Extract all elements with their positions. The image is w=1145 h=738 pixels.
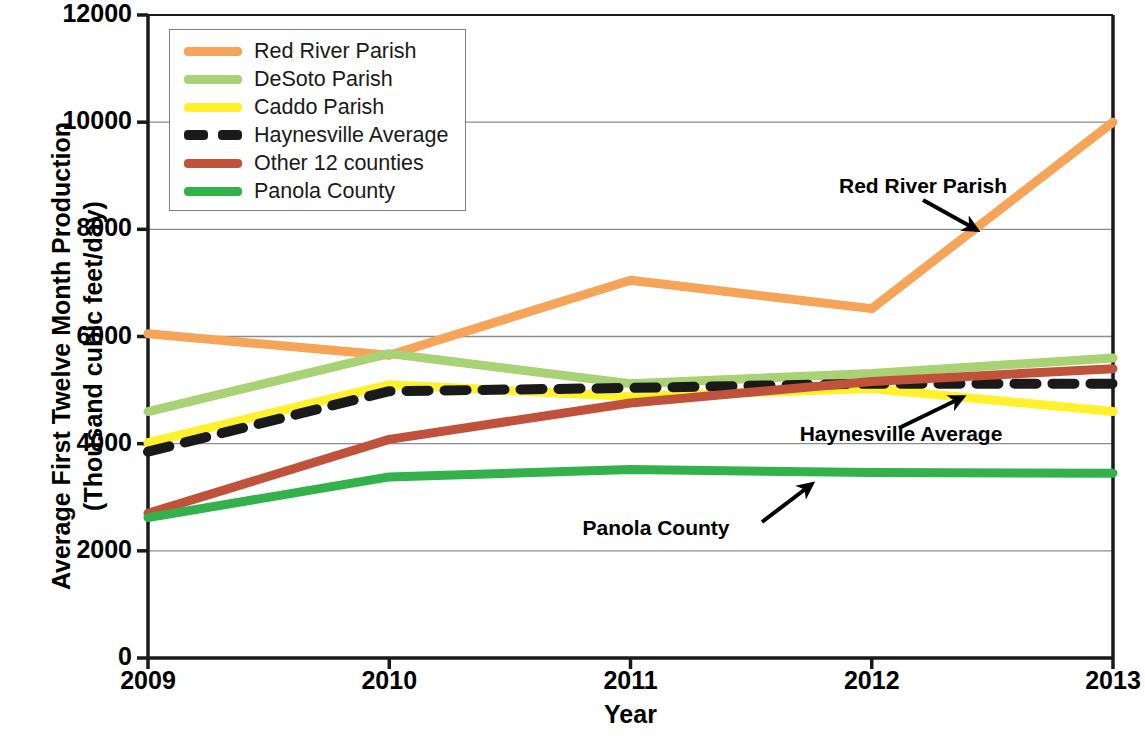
annotation-arrow: [923, 200, 977, 230]
annotation-label: Haynesville Average: [800, 422, 1003, 446]
legend-item-label: Caddo Parish: [254, 97, 384, 118]
legend-swatch: [184, 75, 242, 84]
legend-item-label: Panola County: [254, 181, 395, 202]
legend-item-label: DeSoto Parish: [254, 69, 393, 90]
legend-swatch: [184, 130, 242, 140]
series-line: [148, 469, 1113, 517]
chart-legend: Red River ParishDeSoto ParishCaddo Paris…: [169, 29, 466, 211]
legend-swatch: [184, 47, 242, 56]
legend-item[interactable]: Panola County: [184, 177, 465, 205]
legend-swatch: [184, 187, 242, 196]
legend-swatch: [184, 159, 242, 168]
legend-item[interactable]: Other 12 counties: [184, 149, 465, 177]
legend-item-label: Red River Parish: [254, 41, 417, 62]
annotation-label: Panola County: [582, 516, 729, 540]
annotation-arrow: [762, 484, 812, 522]
legend-item[interactable]: Red River Parish: [184, 37, 465, 65]
annotation-label: Red River Parish: [839, 174, 1007, 198]
legend-item[interactable]: Caddo Parish: [184, 93, 465, 121]
legend-swatch: [184, 103, 242, 112]
legend-item[interactable]: DeSoto Parish: [184, 65, 465, 93]
legend-item[interactable]: Haynesville Average: [184, 121, 465, 149]
legend-item-label: Other 12 counties: [254, 153, 424, 174]
legend-item-label: Haynesville Average: [254, 125, 448, 146]
